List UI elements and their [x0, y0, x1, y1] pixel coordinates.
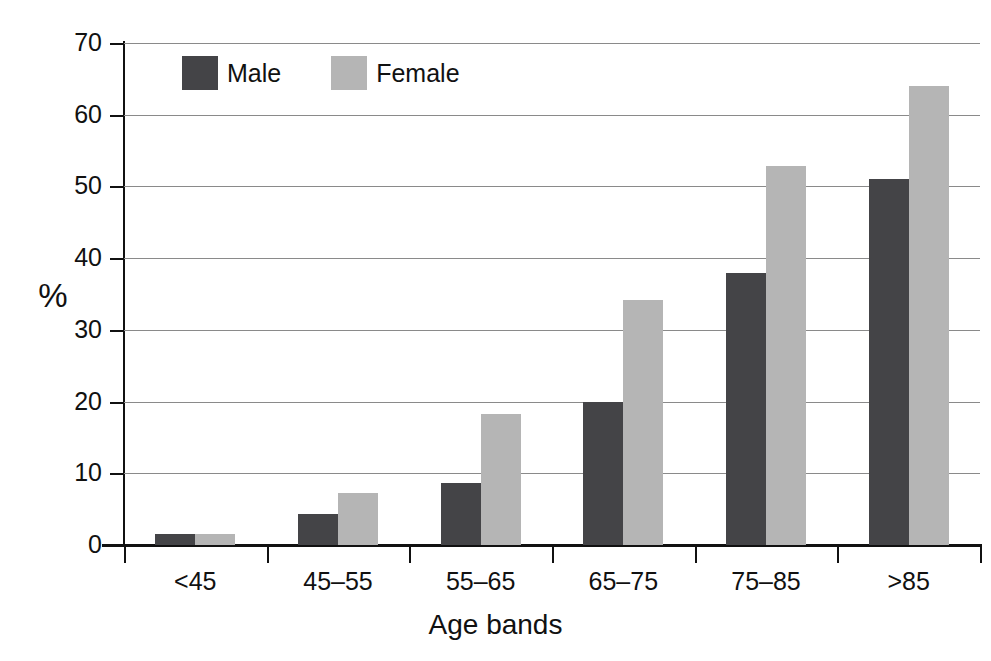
plot-area: [124, 43, 980, 545]
y-tick-mark: [110, 258, 123, 260]
y-tick-mark: [110, 473, 123, 475]
legend-label-female: Female: [376, 59, 459, 87]
gridline: [124, 186, 980, 187]
bar-group: [441, 43, 521, 545]
legend-item-male: Male: [182, 56, 281, 90]
x-axis-title: Age bands: [0, 608, 991, 642]
bar-group: [155, 43, 235, 545]
bar-female-55–65: [481, 414, 521, 545]
gridline: [124, 402, 980, 403]
bar-male-55–65: [441, 483, 481, 545]
legend-item-female: Female: [331, 56, 459, 90]
bar-group: [726, 43, 806, 545]
bar-group: [583, 43, 663, 545]
y-tick-label: 50: [44, 173, 102, 198]
bar-female->85: [909, 86, 949, 545]
x-tick-mark: [552, 547, 554, 563]
x-tick-mark: [695, 547, 697, 563]
bar-male->85: [869, 179, 909, 545]
x-tick-label: 45–55: [263, 566, 413, 596]
bar-male-<45: [155, 534, 195, 545]
legend-label-male: Male: [227, 59, 281, 87]
gridline: [124, 115, 980, 116]
y-tick-label: 30: [44, 317, 102, 342]
y-tick-label: 0: [44, 532, 102, 557]
x-tick-label: 65–75: [548, 566, 698, 596]
bar-group: [869, 43, 949, 545]
legend-swatch-male: [182, 56, 218, 90]
x-tick-label: 75–85: [691, 566, 841, 596]
x-tick-label: 55–65: [406, 566, 556, 596]
x-tick-mark: [267, 547, 269, 563]
y-tick-mark: [110, 402, 123, 404]
x-tick-label: <45: [120, 566, 270, 596]
x-tick-mark: [409, 547, 411, 563]
y-tick-label: 70: [44, 30, 102, 55]
bar-female-75–85: [766, 166, 806, 545]
bar-male-75–85: [726, 273, 766, 546]
gridline: [124, 258, 980, 259]
x-tick-label: >85: [834, 566, 984, 596]
y-tick-label: 10: [44, 460, 102, 485]
bar-group: [298, 43, 378, 545]
gridline: [124, 330, 980, 331]
y-tick-label: 40: [44, 245, 102, 270]
y-axis-title: %: [18, 276, 88, 316]
bar-female-45–55: [338, 493, 378, 545]
y-tick-mark: [110, 330, 123, 332]
y-tick-mark: [110, 43, 123, 45]
legend: Male Female: [182, 56, 460, 90]
y-tick-mark: [110, 186, 123, 188]
x-tick-mark: [980, 547, 982, 563]
x-tick-mark: [124, 547, 126, 563]
legend-swatch-female: [331, 56, 367, 90]
bar-female-65–75: [623, 300, 663, 545]
y-tick-label: 60: [44, 102, 102, 127]
bar-chart: % 010203040506070 <4545–5555–6565–7575–8…: [0, 0, 991, 661]
x-tick-mark: [837, 547, 839, 563]
bar-male-65–75: [583, 402, 623, 545]
gridline: [124, 473, 980, 474]
y-tick-label: 20: [44, 389, 102, 414]
bar-male-45–55: [298, 514, 338, 545]
bar-female-<45: [195, 534, 235, 545]
y-tick-mark: [110, 115, 123, 117]
gridline: [124, 43, 980, 44]
